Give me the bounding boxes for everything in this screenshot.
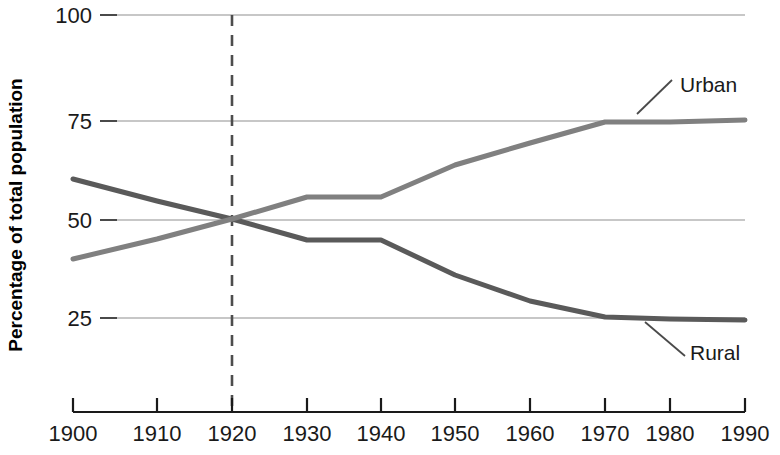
y-axis-title: Percentage of total population <box>5 78 26 351</box>
urban-leader-line <box>637 80 672 114</box>
x-tick-label-1900: 1900 <box>49 421 98 446</box>
x-tick-label-1940: 1940 <box>357 421 406 446</box>
y-tick-label-100: 100 <box>55 3 92 28</box>
rural-leader-line <box>645 322 685 356</box>
x-tick-label-1930: 1930 <box>283 421 332 446</box>
chart-container: 100 75 50 25 Percentage of total populat… <box>0 0 780 455</box>
x-tick-label-1920: 1920 <box>208 421 257 446</box>
y-tick-label-75: 75 <box>68 109 92 134</box>
x-tick-label-1990: 1990 <box>721 421 770 446</box>
urban-rural-population-line-chart: 100 75 50 25 Percentage of total populat… <box>0 0 780 455</box>
x-tick-label-1910: 1910 <box>133 421 182 446</box>
y-tick-label-50: 50 <box>68 208 92 233</box>
series-line-rural <box>73 179 745 320</box>
x-tick-label-1950: 1950 <box>431 421 480 446</box>
series-line-urban <box>73 120 745 259</box>
y-tick-label-25: 25 <box>68 306 92 331</box>
gridlines <box>113 15 745 318</box>
x-axis <box>73 398 745 412</box>
series-label-rural: Rural <box>690 341 740 364</box>
y-axis-ticks <box>100 15 117 318</box>
x-tick-label-1980: 1980 <box>646 421 695 446</box>
series-label-urban: Urban <box>680 73 737 96</box>
x-tick-label-1960: 1960 <box>506 421 555 446</box>
x-tick-label-1970: 1970 <box>581 421 630 446</box>
